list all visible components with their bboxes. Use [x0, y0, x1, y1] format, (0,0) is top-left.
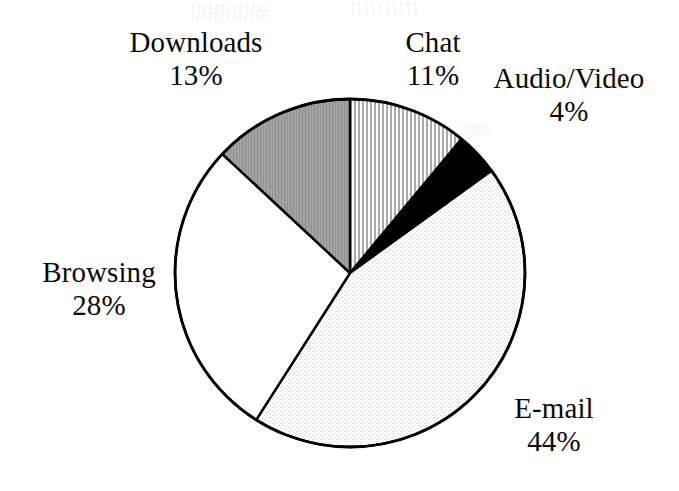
pie-label-audio-video: Audio/Video 4%	[466, 62, 672, 128]
pie-label-audio-video-percent: 4%	[466, 95, 672, 128]
pie-label-email-name: E-mail	[470, 392, 638, 425]
pie-label-downloads-name: Downloads	[92, 26, 300, 59]
pie-label-browsing-name: Browsing	[10, 256, 188, 289]
pie-label-browsing-percent: 28%	[10, 289, 188, 322]
pie-label-browsing: Browsing 28%	[10, 256, 188, 322]
pie-chart-figure: Downloads 13% Chat 11% Audio/Video 4% Br…	[0, 0, 679, 491]
pie-label-email: E-mail 44%	[470, 392, 638, 458]
pie-label-audio-video-name: Audio/Video	[466, 62, 672, 95]
pie-label-email-percent: 44%	[470, 425, 638, 458]
pie-label-downloads: Downloads 13%	[92, 26, 300, 92]
pie-label-chat-name: Chat	[372, 26, 494, 59]
pie-label-downloads-percent: 13%	[92, 59, 300, 92]
